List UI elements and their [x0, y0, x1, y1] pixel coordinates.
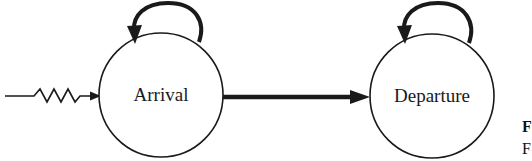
state-departure: Departure — [370, 34, 494, 158]
state-arrival: Arrival — [99, 33, 223, 157]
departure-label: Departure — [394, 85, 470, 106]
transition-arrowhead-icon — [350, 90, 370, 104]
transition-arrival-to-departure — [223, 90, 370, 104]
input-zigzag-arrow — [5, 89, 101, 102]
caption-fragment-regular: F — [522, 140, 531, 158]
caption-fragment-bold: F — [522, 118, 532, 136]
arrival-label: Arrival — [134, 84, 189, 105]
